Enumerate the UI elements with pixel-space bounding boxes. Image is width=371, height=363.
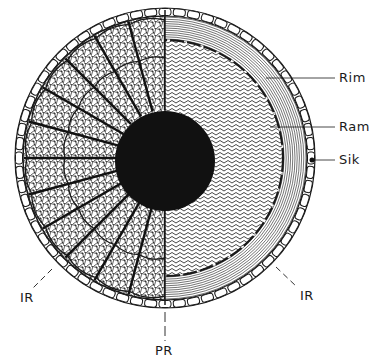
dark-core	[115, 111, 215, 211]
label-rim: Rim	[339, 71, 366, 84]
label-ir-left: IR	[20, 291, 34, 304]
sik-marker	[310, 158, 315, 163]
ir-left-leader-line	[33, 269, 52, 288]
label-ram: Ram	[339, 120, 370, 133]
label-ir-right: IR	[300, 289, 314, 302]
cross-section-diagram	[0, 0, 371, 363]
label-sik: Sik	[339, 153, 360, 166]
ir-right-leader-line	[276, 267, 297, 287]
label-pr: PR	[155, 344, 173, 357]
